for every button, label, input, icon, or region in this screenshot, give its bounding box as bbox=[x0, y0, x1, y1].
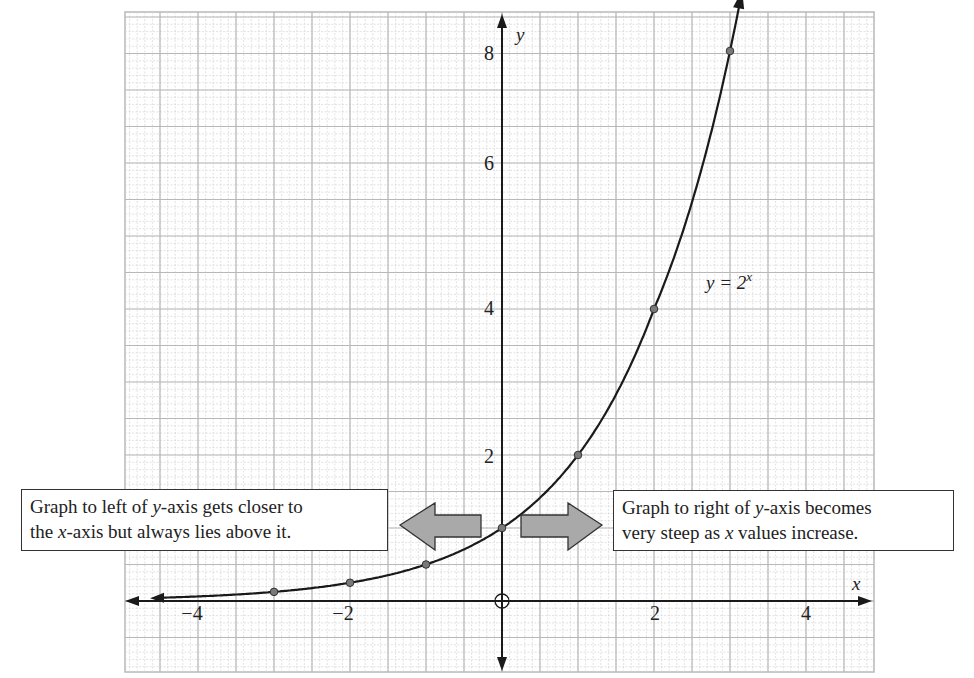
data-point bbox=[650, 305, 658, 313]
data-point bbox=[574, 451, 582, 459]
callout-right-line2: very steep as x values increase. bbox=[622, 520, 945, 545]
data-point bbox=[346, 579, 354, 587]
callout-left-line2: the x-axis but always lies above it. bbox=[30, 519, 379, 544]
data-point bbox=[270, 588, 278, 596]
x-tick-label: 4 bbox=[801, 602, 811, 624]
graph-paper-grid bbox=[125, 12, 874, 672]
y-tick-label: 4 bbox=[484, 297, 494, 319]
callout-left-of-y-axis: Graph to left of y-axis gets closer to t… bbox=[21, 489, 388, 551]
x-tick-label: 2 bbox=[650, 602, 660, 624]
y-axis-label: y bbox=[514, 24, 525, 45]
x-axis-label: x bbox=[851, 573, 861, 594]
data-point bbox=[422, 561, 430, 569]
function-label: y = 2x bbox=[704, 269, 752, 293]
x-tick-label: −4 bbox=[181, 602, 202, 624]
callout-right-line1: Graph to right of y-axis becomes bbox=[622, 495, 945, 520]
y-tick-label: 6 bbox=[484, 152, 494, 174]
data-point bbox=[498, 524, 506, 532]
y-tick-label: 2 bbox=[484, 445, 494, 467]
data-point bbox=[726, 47, 734, 55]
x-tick-label: −2 bbox=[332, 602, 353, 624]
callout-left-line1: Graph to left of y-axis gets closer to bbox=[30, 494, 379, 519]
y-tick-label: 8 bbox=[484, 42, 494, 64]
exponential-graph: xy −4−2242468 y = 2x bbox=[0, 0, 974, 678]
callout-right-of-y-axis: Graph to right of y-axis becomes very st… bbox=[613, 490, 954, 551]
